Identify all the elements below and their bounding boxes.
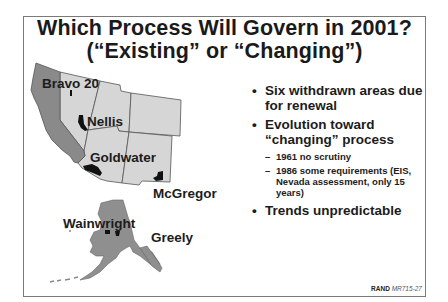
bullet-icon: • xyxy=(252,117,257,132)
map-label-mcgregor: McGregor xyxy=(153,186,217,201)
bullet-item: • Six withdrawn areas due for renewal xyxy=(252,83,432,113)
bullet-item: • Trends unpredictable xyxy=(252,203,432,218)
footer-code: MR715-27 xyxy=(392,285,422,292)
map-label-nellis: Nellis xyxy=(87,114,123,129)
bullet-icon: • xyxy=(252,83,257,98)
map-label-wainwright: Wainwright xyxy=(63,216,135,231)
dash-icon: – xyxy=(265,151,270,162)
bullet-list: • Six withdrawn areas due for renewal • … xyxy=(252,83,432,222)
sub-bullet-item: – 1986 some requirements (EIS, Nevada as… xyxy=(252,165,432,198)
state-colorado xyxy=(129,93,181,136)
footer-org: RAND xyxy=(371,285,390,292)
bullet-item: • Evolution toward “changing” process xyxy=(252,117,432,147)
map-label-goldwater: Goldwater xyxy=(90,150,156,165)
map-label-greely: Greely xyxy=(151,230,193,245)
map-label-bravo-20: Bravo 20 xyxy=(42,76,99,91)
state-alaska xyxy=(80,200,160,280)
sub-bullet-item: – 1961 no scrutiny xyxy=(252,151,432,162)
dash-icon: – xyxy=(265,165,270,176)
bullet-icon: • xyxy=(252,203,257,218)
footer-credit: RAND MR715-27 xyxy=(371,285,422,292)
